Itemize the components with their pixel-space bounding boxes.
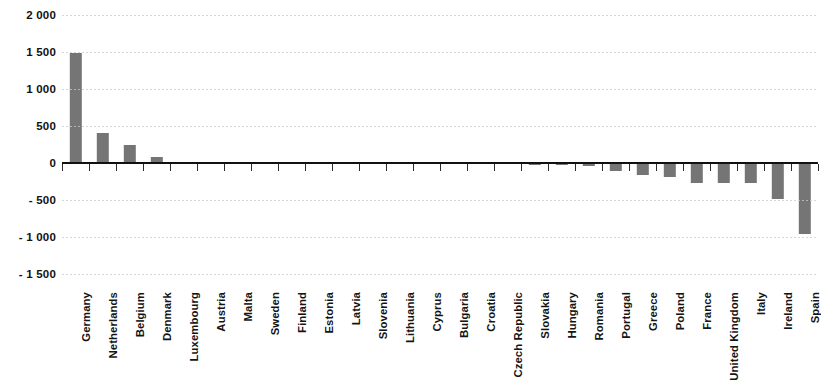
bar-series: [62, 0, 818, 290]
x-label-slot: Ireland: [764, 292, 791, 381]
bar-slot: [440, 0, 467, 290]
y-tick-label: 2 000: [26, 9, 56, 21]
bar-slot: [170, 0, 197, 290]
bar-slot: [305, 0, 332, 290]
x-label-slot: Cyprus: [413, 292, 440, 381]
x-label-slot: Germany: [62, 292, 89, 381]
x-label-slot: Estonia: [305, 292, 332, 381]
x-label-slot: Slovakia: [521, 292, 548, 381]
bar-slot: [224, 0, 251, 290]
bar-slot: [386, 0, 413, 290]
x-label-slot: Croatia: [467, 292, 494, 381]
bar-slot: [116, 0, 143, 290]
bar-slot: [467, 0, 494, 290]
x-label-slot: France: [683, 292, 710, 381]
plot-area: [62, 0, 818, 290]
bar-slot: [197, 0, 224, 290]
bar: [609, 163, 621, 171]
bar: [663, 163, 675, 177]
bar-slot: [89, 0, 116, 290]
y-tick-label: - 1 000: [19, 231, 56, 243]
bar-slot: [143, 0, 170, 290]
gridline: [62, 237, 818, 238]
bar-slot: [683, 0, 710, 290]
gridline: [62, 274, 818, 275]
x-label-slot: Belgium: [116, 292, 143, 381]
x-label-slot: Portugal: [602, 292, 629, 381]
bar-slot: [494, 0, 521, 290]
bar-slot: [521, 0, 548, 290]
y-tick-label: 0: [49, 157, 56, 169]
y-tick-label: 1 000: [26, 83, 56, 95]
x-label-slot: Netherlands: [89, 292, 116, 381]
bar: [744, 163, 756, 183]
bar: [96, 133, 108, 163]
y-axis: 2 0001 5001 0005000- 500- 1 000- 1 500: [0, 0, 62, 290]
y-tick-label: - 1 500: [19, 268, 56, 280]
x-tickmark: [62, 164, 63, 171]
bar-slot: [548, 0, 575, 290]
x-label-slot: Finland: [278, 292, 305, 381]
y-tick-label: 1 500: [26, 46, 56, 58]
bar: [771, 163, 783, 199]
y-tick-label: 500: [36, 120, 56, 132]
x-label-slot: Latvia: [332, 292, 359, 381]
bar-slot: [602, 0, 629, 290]
x-tickmark: [818, 164, 819, 171]
x-label-slot: Hungary: [548, 292, 575, 381]
bar-slot: [737, 0, 764, 290]
zero-axis-line: [62, 162, 818, 164]
x-label-slot: Austria: [197, 292, 224, 381]
bar-slot: [413, 0, 440, 290]
bar: [690, 163, 702, 183]
x-label-slot: Romania: [575, 292, 602, 381]
x-label-slot: Greece: [629, 292, 656, 381]
x-label-slot: Denmark: [143, 292, 170, 381]
bar-slot: [251, 0, 278, 290]
bar-slot: [710, 0, 737, 290]
bar: [123, 145, 135, 163]
bar-slot: [278, 0, 305, 290]
gridline: [62, 89, 818, 90]
x-label-slot: Italy: [737, 292, 764, 381]
bar-slot: [791, 0, 818, 290]
x-label-slot: Spain: [791, 292, 818, 381]
bar: [798, 163, 810, 234]
x-tick-label: Spain: [809, 292, 821, 323]
y-tick-label: - 500: [29, 194, 56, 206]
bar-slot: [359, 0, 386, 290]
gridline: [62, 200, 818, 201]
x-label-slot: Bulgaria: [440, 292, 467, 381]
bar: [69, 53, 81, 163]
bar-slot: [332, 0, 359, 290]
bar: [636, 163, 648, 175]
x-label-slot: Sweden: [251, 292, 278, 381]
x-label-slot: Luxembourg: [170, 292, 197, 381]
x-label-slot: Slovenia: [359, 292, 386, 381]
x-label-slot: United Kingdom: [710, 292, 737, 381]
x-label-slot: Lithuania: [386, 292, 413, 381]
bar-slot: [62, 0, 89, 290]
gridline: [62, 15, 818, 16]
x-label-slot: Malta: [224, 292, 251, 381]
x-axis-labels: GermanyNetherlandsBelgiumDenmarkLuxembou…: [62, 292, 818, 381]
gridline: [62, 52, 818, 53]
gridline: [62, 126, 818, 127]
bar-slot: [656, 0, 683, 290]
bar-slot: [629, 0, 656, 290]
x-label-slot: Poland: [656, 292, 683, 381]
bar-slot: [575, 0, 602, 290]
bar-slot: [764, 0, 791, 290]
bar: [717, 163, 729, 183]
x-label-slot: Czech Republic: [494, 292, 521, 381]
